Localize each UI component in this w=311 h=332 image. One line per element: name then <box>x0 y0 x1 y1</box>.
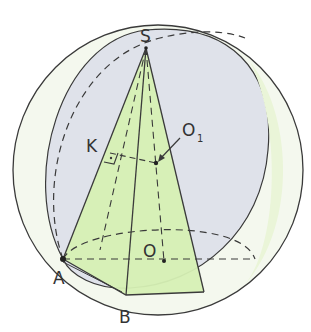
point-O1 <box>154 161 158 165</box>
point-A <box>60 256 66 262</box>
right-angle-dot <box>110 157 112 159</box>
diagram-canvas: S K O 1 O A B <box>0 0 311 332</box>
point-S <box>144 46 148 50</box>
label-O1: O <box>182 120 195 140</box>
point-O <box>162 259 166 263</box>
label-K: K <box>86 136 98 156</box>
cone-in-sphere-diagram: S K O 1 O A B <box>0 0 311 332</box>
label-A: A <box>53 268 65 288</box>
label-O1-subscript: 1 <box>197 133 203 144</box>
label-S: S <box>140 26 151 46</box>
label-B: B <box>119 307 131 327</box>
label-O: O <box>143 241 156 261</box>
